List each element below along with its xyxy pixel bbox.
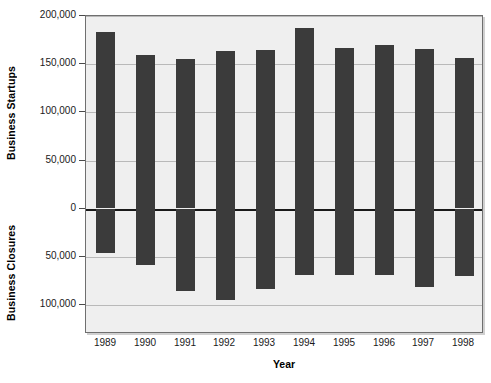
x-axis-title: Year: [85, 358, 483, 370]
bar-startups-1989: [96, 32, 115, 208]
bar-closures-1997: [415, 209, 434, 287]
plot-area: [85, 15, 483, 333]
bar-startups-1991: [176, 59, 195, 208]
bar-closures-1998: [455, 209, 474, 276]
bar-closures-1990: [136, 209, 155, 265]
x-axis-tick-label-1989: 1989: [85, 337, 125, 348]
bar-startups-1992: [216, 51, 235, 209]
y-axis-tick-label: 0: [6, 202, 76, 213]
bar-startups-1995: [335, 48, 354, 209]
bar-chart-figure: Business Startups Business Closures 200,…: [0, 0, 491, 383]
x-axis-tick-label-1994: 1994: [284, 337, 324, 348]
y-axis-tick-label: 50,000: [6, 154, 76, 165]
bar-closures-1989: [96, 209, 115, 253]
bar-closures-1994: [295, 209, 314, 275]
y-axis-tick-label: 50,000: [6, 250, 76, 261]
bar-closures-1993: [256, 209, 275, 289]
bar-closures-1991: [176, 209, 195, 291]
bar-startups-1990: [136, 55, 155, 209]
x-axis-tick-label-1993: 1993: [244, 337, 284, 348]
x-axis-tick-label-1997: 1997: [403, 337, 443, 348]
bar-closures-1995: [335, 209, 354, 275]
bar-closures-1992: [216, 209, 235, 300]
x-axis-tick-label-1990: 1990: [125, 337, 165, 348]
bar-startups-1994: [295, 28, 314, 209]
y-axis-tick-label: 100,000: [6, 105, 76, 116]
bar-startups-1997: [415, 49, 434, 209]
x-axis-tick-label-1996: 1996: [364, 337, 404, 348]
x-axis-tick-label-1998: 1998: [443, 337, 483, 348]
bar-closures-1996: [375, 209, 394, 275]
plot-inner: [86, 16, 482, 332]
bar-startups-1996: [375, 45, 394, 209]
x-axis-tick-label-1992: 1992: [204, 337, 244, 348]
bar-startups-1998: [455, 58, 474, 208]
y-axis-tick-label: 100,000: [6, 298, 76, 309]
y-axis-tick-label: 150,000: [6, 57, 76, 68]
y-axis-tick-label: 200,000: [6, 9, 76, 20]
gridline: [86, 16, 482, 17]
x-axis-tick-label-1991: 1991: [165, 337, 205, 348]
x-axis-tick-label-1995: 1995: [324, 337, 364, 348]
y-axis-title-closures: Business Closures: [0, 213, 22, 333]
gridline: [86, 305, 482, 306]
x-axis-tick-labels: 1989199019911992199319941995199619971998: [85, 337, 483, 353]
bar-startups-1993: [256, 50, 275, 209]
